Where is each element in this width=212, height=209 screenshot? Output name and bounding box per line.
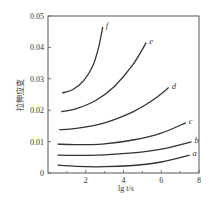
series-line-e [61, 43, 146, 112]
y-axis-title: 拉伸应变 [15, 79, 25, 111]
plot-border [48, 16, 199, 173]
y-tick-label: 0.03 [30, 75, 44, 84]
series-label-f: f [106, 20, 110, 30]
y-tick-label: 0.05 [30, 12, 44, 21]
series-line-c [57, 123, 185, 145]
series-label-c: c [189, 116, 193, 126]
series-label-d: d [172, 81, 177, 91]
y-tick-label: 0.02 [30, 106, 44, 115]
y-tick-label: 0 [40, 169, 44, 178]
chart: 00.010.020.030.040.052468 abcdef lg t/s … [0, 0, 212, 209]
series-line-f [62, 27, 102, 93]
series-label-b: b [194, 135, 198, 145]
x-tick-label: 2 [84, 176, 88, 185]
series-label-a: a [193, 148, 197, 158]
series-label-e: e [149, 36, 153, 46]
y-tick-label: 0.04 [30, 43, 44, 52]
series-line-b [57, 142, 191, 156]
x-tick-label: 8 [197, 176, 201, 185]
plot-frame [48, 16, 199, 173]
x-axis-title: lg t/s [118, 184, 134, 193]
series-line-a [57, 155, 189, 167]
series-lines: abcdef [57, 20, 198, 167]
y-tick-label: 0.01 [30, 138, 44, 147]
x-tick-label: 6 [159, 176, 163, 185]
